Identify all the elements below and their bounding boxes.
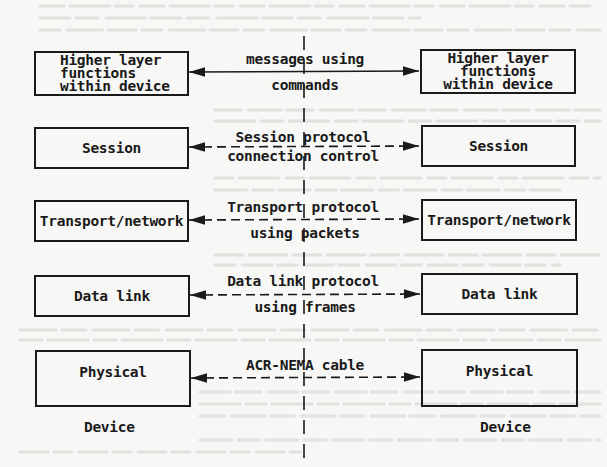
arrow-physical <box>191 377 420 378</box>
box-label: Physical <box>466 365 533 378</box>
session-label-top: Session protocol <box>218 129 388 145</box>
left-physical-box: Physical <box>35 350 191 407</box>
left-device-label: Device <box>84 419 135 435</box>
right-data-link-box: Data link <box>421 273 578 315</box>
box-label: Data link <box>462 288 538 301</box>
right-physical-box: Physical <box>421 349 578 407</box>
right-session-box: Session <box>421 125 576 167</box>
box-label: Session <box>82 142 141 155</box>
box-label-line: within device <box>60 80 170 93</box>
higher-layer-label-bottom: commands <box>230 77 380 93</box>
box-label: Transport/network <box>40 215 183 228</box>
left-transport-network-box: Transport/network <box>34 200 189 242</box>
box-label: Physical <box>79 366 146 379</box>
box-label-line: within device <box>443 78 553 91</box>
right-device-label: Device <box>480 419 531 435</box>
arrow-higher-layer <box>189 71 419 72</box>
left-higher-layer-box: Higher layer functions within device <box>34 51 189 96</box>
physical-label-top: ACR-NEMA cable <box>230 357 380 373</box>
arrow-session <box>189 146 419 147</box>
data-link-label-bottom: using frames <box>230 299 380 315</box>
higher-layer-label-top: messages using <box>230 51 380 67</box>
box-label: Data link <box>74 290 150 303</box>
left-session-box: Session <box>34 127 189 169</box>
right-transport-network-box: Transport/network <box>421 199 577 241</box>
arrow-transport <box>189 219 419 220</box>
transport-label-bottom: using packets <box>230 225 380 241</box>
box-label: Transport/network <box>427 214 570 227</box>
transport-label-top: Transport protocol <box>218 199 388 215</box>
right-higher-layer-box: Higher layer functions within device <box>420 49 576 94</box>
arrow-data-link <box>190 294 420 295</box>
data-link-label-top: Data link protocol <box>218 273 388 289</box>
session-label-bottom: connection control <box>210 148 396 164</box>
box-label: Session <box>469 140 528 153</box>
left-data-link-box: Data link <box>34 275 190 317</box>
